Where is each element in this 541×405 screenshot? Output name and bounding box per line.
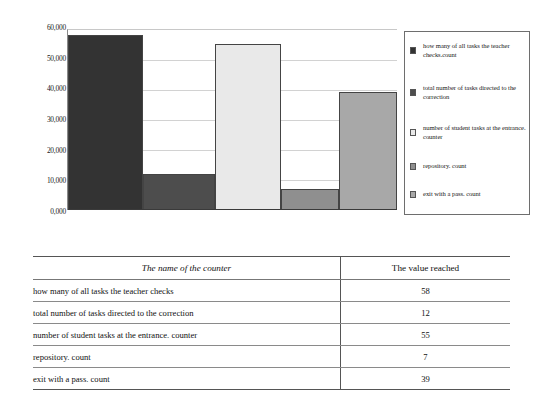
cell-counter-value: 39 <box>341 368 511 390</box>
legend-item-label: repository. count <box>423 162 466 171</box>
column-header-value: The value reached <box>341 257 511 280</box>
cell-counter-value: 55 <box>341 324 511 346</box>
legend-item[interactable]: exit with a pass. count <box>410 190 527 199</box>
cell-counter-value: 12 <box>341 302 511 324</box>
table-row: how many of all tasks the teacher checks… <box>33 280 510 302</box>
table-body: how many of all tasks the teacher checks… <box>33 280 510 390</box>
table-row: repository. count7 <box>33 346 510 368</box>
table-header: The name of the counter The value reache… <box>33 257 510 280</box>
column-header-name: The name of the counter <box>33 257 341 280</box>
table-row: number of student tasks at the entrance.… <box>33 324 510 346</box>
table-header-row: The name of the counter The value reache… <box>33 257 510 280</box>
legend-swatch-icon <box>410 129 416 136</box>
cell-counter-name: exit with a pass. count <box>33 368 341 390</box>
legend-swatch-icon <box>410 89 416 96</box>
legend-swatch-icon <box>410 191 416 198</box>
y-tick-label: 10,000 <box>18 176 66 185</box>
x-axis-line <box>68 209 397 210</box>
cell-counter-name: how many of all tasks the teacher checks <box>33 280 341 302</box>
legend-item[interactable]: how many of all tasks the teacher checks… <box>410 42 527 59</box>
y-tick-label: 30,000 <box>18 115 66 124</box>
y-tick-label: 20,000 <box>18 145 66 154</box>
legend-swatch-icon <box>410 47 416 54</box>
legend-item[interactable]: number of student tasks at the entrance.… <box>410 124 527 141</box>
y-tick-label: 40,000 <box>18 84 66 93</box>
legend-item-label: how many of all tasks the teacher checks… <box>423 42 527 59</box>
counter-values-table-wrapper: The name of the counter The value reache… <box>33 256 509 390</box>
bar <box>339 92 397 210</box>
bar <box>281 189 339 210</box>
legend-item-label: total number of tasks directed to the co… <box>423 84 527 101</box>
y-tick-label: 50,000 <box>18 53 66 62</box>
bar-chart-figure: 60,000 50,000 40,000 30,000 20,000 10,00… <box>0 0 541 240</box>
cell-counter-name: number of student tasks at the entrance.… <box>33 324 341 346</box>
y-tick-label: 0,000 <box>18 207 66 216</box>
counter-values-table: The name of the counter The value reache… <box>33 256 510 390</box>
chart-legend: how many of all tasks the teacher checks… <box>404 31 530 215</box>
legend-item-label: exit with a pass. count <box>423 190 481 199</box>
cell-counter-value: 58 <box>341 280 511 302</box>
plot-area <box>67 29 397 210</box>
legend-item[interactable]: repository. count <box>410 162 527 171</box>
cell-counter-name: total number of tasks directed to the co… <box>33 302 341 324</box>
y-tick-label: 60,000 <box>18 23 66 32</box>
legend-item[interactable]: total number of tasks directed to the co… <box>410 84 527 101</box>
table-row: exit with a pass. count39 <box>33 368 510 390</box>
y-axis-tick-labels: 60,000 50,000 40,000 30,000 20,000 10,00… <box>18 27 66 211</box>
table-row: total number of tasks directed to the co… <box>33 302 510 324</box>
bar <box>143 174 215 210</box>
legend-items: how many of all tasks the teacher checks… <box>405 32 529 214</box>
legend-item-label: number of student tasks at the entrance.… <box>423 124 527 141</box>
bars-layer <box>68 30 397 210</box>
legend-swatch-icon <box>410 163 416 170</box>
bar <box>215 44 282 210</box>
cell-counter-name: repository. count <box>33 346 341 368</box>
bar <box>68 35 143 210</box>
cell-counter-value: 7 <box>341 346 511 368</box>
